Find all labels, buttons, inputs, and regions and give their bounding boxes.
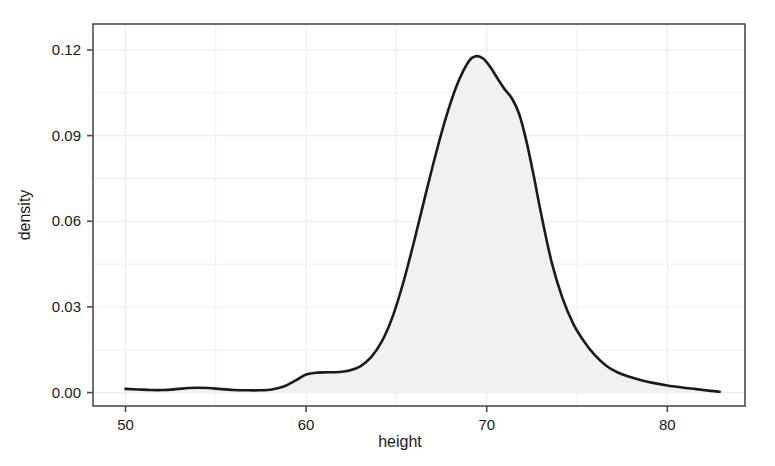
density-plot-svg: 50607080 0.000.030.060.090.12 height den… [0,0,775,466]
y-axis-tick-label: 0.00 [52,384,81,401]
y-axis-tick-label: 0.09 [52,127,81,144]
y-axis-tick-label: 0.03 [52,298,81,315]
y-axis-title: density [16,190,33,241]
x-axis-tick-label: 50 [117,416,134,433]
figure-background [0,0,775,466]
x-axis-title: height [378,433,422,450]
y-axis-tick-label: 0.06 [52,212,81,229]
y-axis-tick-label: 0.12 [52,41,81,58]
x-axis-tick-label: 70 [478,416,495,433]
x-axis-tick-label: 60 [298,416,315,433]
density-plot-figure: 50607080 0.000.030.060.090.12 height den… [0,0,775,466]
x-axis-tick-label: 80 [659,416,676,433]
